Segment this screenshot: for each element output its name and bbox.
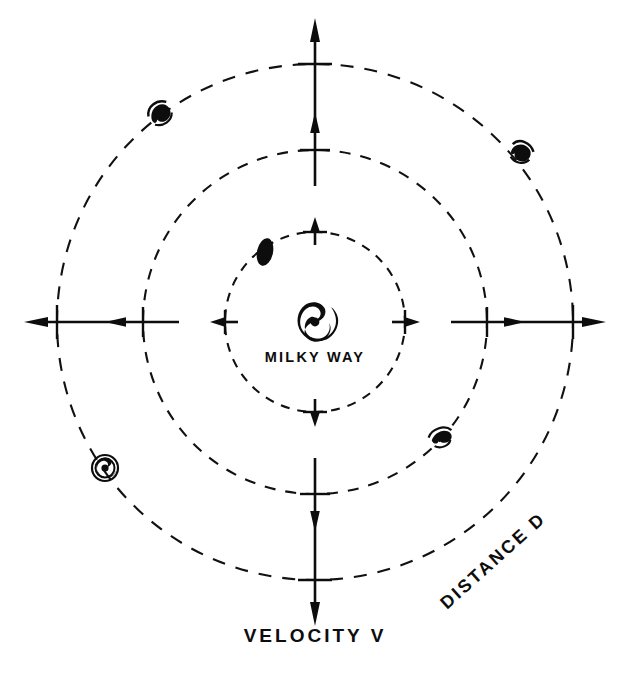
- galaxy-outer-lower-left: [92, 455, 118, 481]
- galaxy-outer-upper-right: [506, 137, 535, 166]
- arrow-outer-up-head: [310, 18, 320, 42]
- diagram-canvas: MILKY WAY VELOCITY V DISTANCE D: [0, 0, 627, 675]
- arrow-inner-left-head: [210, 317, 224, 326]
- galaxy-core-dot: [101, 464, 108, 471]
- arrow-inner-up: [310, 217, 319, 245]
- milky-way-label: MILKY WAY: [265, 349, 365, 365]
- galaxy-inner-upper-left: [254, 237, 275, 268]
- hubble-law-diagram: MILKY WAY VELOCITY V DISTANCE D: [0, 0, 627, 675]
- arrow-outer-down: [310, 522, 320, 626]
- arrow-inner-up-head: [310, 217, 319, 231]
- arrow-outer-down-head: [310, 602, 320, 626]
- arrow-inner-right: [392, 317, 420, 326]
- galaxy-edge-on-disk: [254, 237, 275, 268]
- arrow-outer-left: [24, 317, 115, 327]
- velocity-label: VELOCITY V: [244, 625, 387, 646]
- arrow-inner-down: [310, 399, 319, 427]
- arrow-outer-right: [515, 317, 606, 327]
- galaxy-middle-lower-right: [427, 425, 456, 450]
- arrow-outer-up: [310, 18, 320, 122]
- distance-label: DISTANCE D: [436, 508, 549, 613]
- arrow-outer-left-head: [24, 317, 48, 327]
- milky-way-galaxy-icon: [298, 302, 339, 342]
- arrow-outer-right-head: [582, 317, 606, 327]
- arrow-inner-down-head: [310, 413, 319, 427]
- arrow-inner-left: [210, 317, 238, 326]
- milky-way-core: [311, 318, 320, 327]
- arrow-inner-right-head: [406, 317, 420, 326]
